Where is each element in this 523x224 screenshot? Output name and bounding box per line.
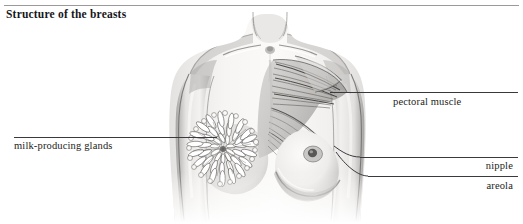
- label-pectoral-muscle: pectoral muscle: [393, 96, 461, 107]
- leader-line-nipple: [360, 157, 518, 158]
- label-areola: areola: [486, 180, 513, 191]
- leader-line-areola: [368, 176, 518, 177]
- leader-line-milk-producing-glands: [14, 137, 217, 138]
- diagram-page: Structure of the breasts: [0, 0, 523, 224]
- anatomy-illustration: [145, 12, 395, 224]
- label-nipple: nipple: [486, 160, 513, 171]
- torso-body: [145, 12, 395, 224]
- page-title: Structure of the breasts: [6, 8, 126, 20]
- nipple-shape: [308, 149, 317, 157]
- leader-line-pectoral-muscle: [330, 92, 518, 93]
- label-milk-producing-glands: milk-producing glands: [14, 140, 113, 151]
- header-divider: [4, 5, 519, 6]
